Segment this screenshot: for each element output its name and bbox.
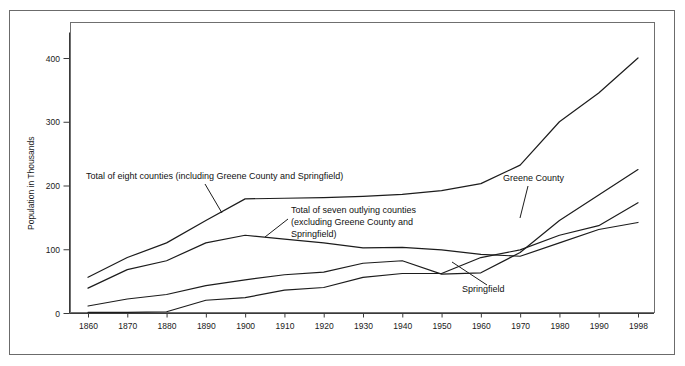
x-tick-label: 1950 (433, 321, 452, 331)
y-axis: 0100200300400 (46, 33, 70, 319)
x-tick-label: 1920 (315, 321, 334, 331)
chart-figure: 0100200300400 18601870188018901900191019… (0, 0, 685, 366)
x-tick-label: 1970 (511, 321, 530, 331)
x-tick-label: 1998 (629, 321, 648, 331)
annotation-label-ann-springfield: Springfield (462, 284, 505, 294)
x-tick-label: 1960 (472, 321, 491, 331)
y-tick-label: 100 (46, 245, 60, 255)
x-axis: 1860187018801890190019101920193019401950… (70, 314, 655, 332)
leader-line-ann-total-eight (205, 184, 222, 213)
y-tick-label: 200 (46, 181, 60, 191)
x-tick-label: 1860 (79, 321, 98, 331)
annotation-line: Total of eight counties (including Green… (86, 171, 343, 181)
y-axis-title: Population in Thousands (26, 137, 36, 230)
y-tick-label: 0 (55, 309, 60, 319)
annotation-line: Springfield) (291, 229, 337, 239)
x-tick-label: 1940 (393, 321, 412, 331)
plot-area-border (71, 23, 655, 313)
annotation-line: Total of seven outlying counties (291, 205, 417, 215)
leader-line-ann-greene-county (520, 186, 528, 218)
annotation-group: Total of eight counties (including Green… (86, 171, 565, 294)
y-tick-label: 400 (46, 54, 60, 64)
annotation-line: Springfield (462, 284, 505, 294)
data-series-group: Total of eight counties (including Green… (88, 58, 638, 312)
x-tick-label: 1870 (118, 321, 137, 331)
annotation-label-ann-greene-county: Greene County (503, 173, 565, 183)
annotation-label-ann-total-eight: Total of eight counties (including Green… (86, 171, 343, 181)
x-tick-label: 1930 (354, 321, 373, 331)
x-tick-label: 1980 (550, 321, 569, 331)
x-tick-label: 1890 (197, 321, 216, 331)
series-line-total-seven-outlying-counties: Total of seven outlying counties (exclud… (88, 222, 638, 288)
x-tick-label: 1900 (236, 321, 255, 331)
annotation-line: Greene County (503, 173, 565, 183)
annotation-line: (excluding Greene County and (291, 217, 413, 227)
x-tick-label: 1910 (275, 321, 294, 331)
y-tick-label: 300 (46, 117, 60, 127)
annotation-label-ann-total-seven: Total of seven outlying counties(excludi… (291, 205, 417, 239)
leader-line-ann-total-seven (265, 219, 288, 237)
population-line-chart: 0100200300400 18601870188018901900191019… (0, 0, 685, 366)
x-tick-label: 1880 (158, 321, 177, 331)
series-line-greene-county: Greene County (88, 170, 638, 306)
x-tick-label: 1990 (590, 321, 609, 331)
